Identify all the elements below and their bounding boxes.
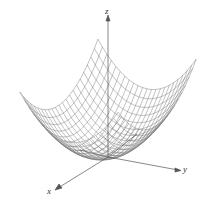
y-axis-label: y <box>183 164 187 174</box>
y-axis <box>108 157 178 170</box>
mesh-line <box>118 59 196 130</box>
x-axis-label: x <box>47 186 51 196</box>
mesh-line <box>52 109 150 159</box>
mesh-line <box>80 79 178 129</box>
mesh-line <box>48 110 146 160</box>
surface-figure <box>0 0 206 201</box>
mesh-line <box>94 48 192 98</box>
y-arrow-icon <box>175 168 181 172</box>
x-arrow-icon <box>55 184 62 190</box>
mesh-line <box>56 83 134 154</box>
z-axis-label: z <box>105 6 109 16</box>
mesh-line <box>38 66 116 136</box>
x-axis <box>58 157 108 188</box>
